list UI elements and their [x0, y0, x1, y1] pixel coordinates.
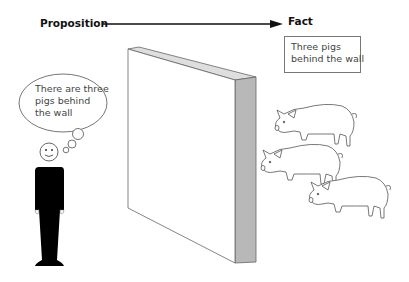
thought-text: There are three pigs behind the wall — [35, 83, 105, 119]
pig-icon — [275, 104, 357, 146]
fact-line: behind the wall — [291, 53, 360, 65]
thought-line: the wall — [35, 107, 105, 119]
wall — [128, 47, 256, 263]
arrow-proposition-to-fact — [102, 20, 283, 28]
thought-line: pigs behind — [35, 95, 105, 107]
fact-line: Three pigs — [291, 41, 360, 53]
wall-front-face — [128, 49, 235, 263]
wall-side-face — [235, 77, 256, 263]
smiley-face-icon — [40, 143, 58, 161]
fact-label: Fact — [288, 15, 313, 27]
proposition-label: Proposition — [40, 17, 108, 29]
thought-line: There are three — [35, 83, 105, 95]
pig-icon — [261, 144, 343, 186]
fact-box: Three pigs behind the wall — [284, 36, 361, 73]
person — [35, 143, 64, 266]
